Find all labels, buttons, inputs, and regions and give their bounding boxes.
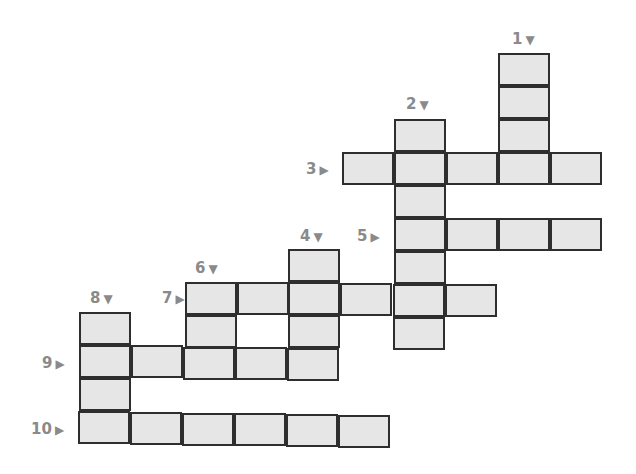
cell-3a-4[interactable] — [498, 152, 550, 185]
down-arrow-icon: ▼ — [208, 262, 217, 276]
clue-label-2-down: 2▼ — [406, 96, 429, 113]
clue-number: 6 — [195, 259, 205, 277]
down-arrow-icon: ▼ — [419, 98, 428, 112]
cell-2d-3[interactable] — [394, 185, 446, 218]
cell-7a-4[interactable] — [340, 283, 392, 316]
cell-3a-1[interactable] — [342, 152, 394, 185]
cell-2d-1[interactable] — [394, 119, 446, 152]
clue-label-9-across: 9▶ — [42, 355, 65, 372]
clue-number: 3 — [306, 160, 316, 178]
right-arrow-icon: ▶ — [55, 423, 64, 437]
cell-10a-2[interactable] — [130, 412, 182, 445]
right-arrow-icon: ▶ — [319, 163, 328, 177]
cell-5a-1[interactable] — [394, 218, 446, 251]
cell-10a-1[interactable] — [78, 411, 130, 444]
cell-1d-2[interactable] — [498, 86, 550, 119]
clue-label-3-across: 3▶ — [306, 161, 329, 178]
cell-10a-6[interactable] — [338, 415, 390, 448]
cell-3a-2[interactable] — [394, 152, 446, 185]
cell-7a-1[interactable] — [185, 282, 237, 315]
cell-3a-3[interactable] — [446, 152, 498, 185]
cell-4d-1[interactable] — [288, 249, 340, 282]
cell-9a-5[interactable] — [287, 348, 339, 381]
clue-label-5-across: 5▶ — [357, 228, 380, 245]
cell-2d-5[interactable] — [394, 251, 446, 284]
cell-6d-2[interactable] — [185, 315, 237, 348]
cell-1d-1[interactable] — [498, 53, 550, 86]
clue-label-6-down: 6▼ — [195, 260, 218, 277]
cell-5a-3[interactable] — [498, 218, 550, 251]
right-arrow-icon: ▶ — [55, 357, 64, 371]
cell-5a-2[interactable] — [446, 218, 498, 251]
clue-number: 8 — [90, 289, 100, 307]
cell-9a-4[interactable] — [235, 347, 287, 380]
cell-5a-4[interactable] — [550, 218, 602, 251]
clue-number: 9 — [42, 354, 52, 372]
clue-number: 10 — [31, 420, 52, 438]
cell-10a-5[interactable] — [286, 414, 338, 447]
clue-label-8-down: 8▼ — [90, 290, 113, 307]
cell-3a-5[interactable] — [550, 152, 602, 185]
clue-number: 4 — [300, 227, 310, 245]
cell-7a-6[interactable] — [445, 284, 497, 317]
crossword-grid: 1▼ 2▼ 3▶ 4▼ 5▶ 6▼ 7▶ 8▼ 9▶ 10▶ — [0, 0, 636, 474]
cell-4d-3[interactable] — [288, 315, 340, 348]
cell-10a-3[interactable] — [182, 413, 234, 446]
clue-number: 7 — [162, 289, 172, 307]
cell-9a-2[interactable] — [131, 345, 183, 378]
cell-10a-4[interactable] — [234, 413, 286, 446]
down-arrow-icon: ▼ — [103, 292, 112, 306]
cell-7a-3[interactable] — [288, 282, 340, 315]
clue-label-7-across: 7▶ — [162, 290, 185, 307]
cell-9a-3[interactable] — [183, 347, 235, 380]
clue-label-1-down: 1▼ — [512, 31, 535, 48]
cell-8d-1[interactable] — [79, 312, 131, 345]
clue-number: 1 — [512, 30, 522, 48]
cell-8d-3[interactable] — [79, 378, 131, 411]
cell-9a-1[interactable] — [79, 345, 131, 378]
down-arrow-icon: ▼ — [525, 33, 534, 47]
clue-number: 5 — [357, 227, 367, 245]
clue-number: 2 — [406, 95, 416, 113]
down-arrow-icon: ▼ — [313, 230, 322, 244]
cell-7a-5[interactable] — [393, 284, 445, 317]
right-arrow-icon: ▶ — [175, 292, 184, 306]
right-arrow-icon: ▶ — [370, 230, 379, 244]
cell-7a-2[interactable] — [237, 282, 289, 315]
clue-label-10-across: 10▶ — [31, 421, 64, 438]
clue-label-4-down: 4▼ — [300, 228, 323, 245]
cell-1d-3[interactable] — [498, 119, 550, 152]
cell-2d-7[interactable] — [393, 317, 445, 350]
